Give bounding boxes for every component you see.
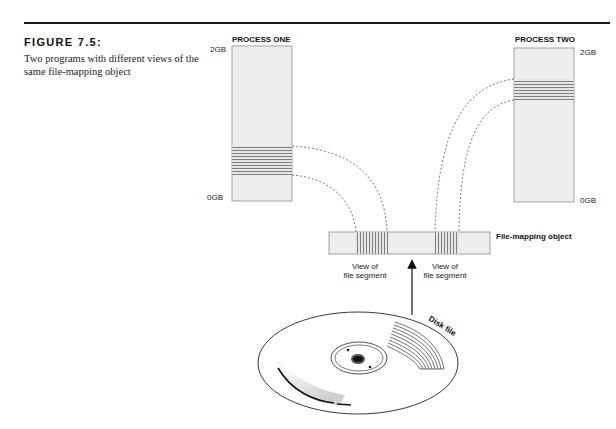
file-segment-view-2 — [435, 232, 459, 254]
process-two-address-space — [514, 48, 574, 202]
diagram-canvas: Disk file — [0, 0, 616, 429]
file-segment-view-1 — [355, 232, 388, 254]
file-mapping-object — [329, 232, 490, 254]
process-one-view-region — [232, 145, 292, 175]
disk-spindle — [352, 355, 364, 363]
disk-platter: Disk file — [258, 312, 458, 414]
process-two-view-region — [514, 79, 574, 100]
process-one-address-space — [232, 46, 292, 201]
process-one-mapping-lines — [292, 146, 387, 232]
process-two-mapping-lines — [435, 79, 514, 232]
